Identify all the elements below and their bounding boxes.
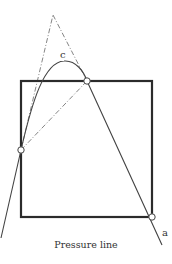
pressure-line-diagram: c a Pressure line — [0, 0, 172, 264]
caption-pressure-line: Pressure line — [54, 239, 118, 250]
label-c: c — [60, 49, 66, 60]
node-left — [18, 147, 24, 153]
construction-lines — [21, 15, 87, 150]
node-bottom-right — [149, 214, 155, 220]
frame-rectangle — [21, 81, 152, 217]
construction-line-diagonal — [21, 81, 87, 150]
node-top — [84, 78, 90, 84]
label-a: a — [162, 227, 168, 238]
